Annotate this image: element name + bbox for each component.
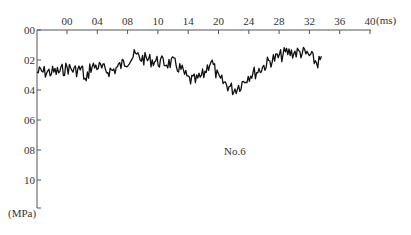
pressure-time-chart <box>0 0 411 235</box>
series-annotation: No.6 <box>224 146 246 157</box>
y-tick-label: 08 <box>24 145 35 156</box>
x-tick-label: 32 <box>304 16 315 27</box>
x-tick-label: 10 <box>152 16 163 27</box>
x-tick-label: 00 <box>62 16 73 27</box>
y-tick-label: 10 <box>24 175 35 186</box>
x-axis-ticks <box>67 30 370 34</box>
y-axis-unit-label: (MPa) <box>8 208 36 219</box>
x-tick-label: 40 <box>365 16 376 27</box>
x-axis-unit-label: (ms) <box>376 15 396 26</box>
x-tick-label: 14 <box>183 16 194 27</box>
y-tick-label: 02 <box>24 55 35 66</box>
x-tick-label: 24 <box>243 16 254 27</box>
y-tick-label: 04 <box>24 85 35 96</box>
x-tick-label: 08 <box>122 16 133 27</box>
y-axis-ticks <box>37 30 41 180</box>
x-tick-label: 20 <box>213 16 224 27</box>
y-tick-label: 00 <box>24 25 35 36</box>
x-tick-label: 36 <box>334 16 345 27</box>
pressure-signal-line <box>37 48 321 95</box>
y-tick-label: 06 <box>24 115 35 126</box>
x-tick-label: 04 <box>92 16 103 27</box>
x-tick-label: 28 <box>274 16 285 27</box>
